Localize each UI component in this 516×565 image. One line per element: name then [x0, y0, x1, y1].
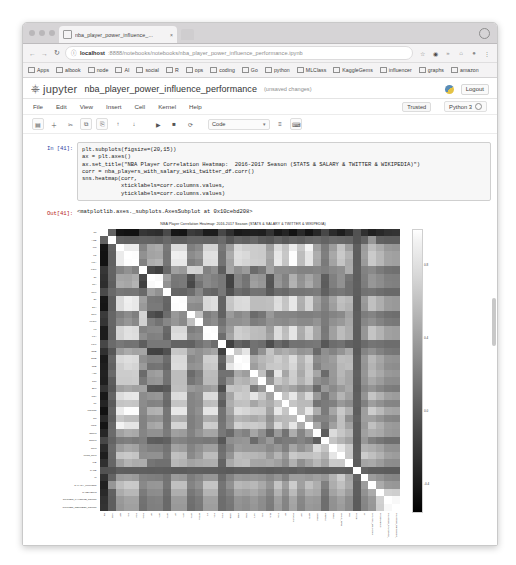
heatmap-cell	[187, 385, 195, 392]
bookmark-item[interactable]: coding	[210, 67, 235, 74]
heatmap-cell	[218, 377, 226, 384]
heatmap-cell	[297, 303, 305, 310]
code-line: corr = nba_players_with_salary_wiki_twit…	[82, 168, 254, 175]
bookmark-item[interactable]: R	[166, 67, 179, 74]
window-controls[interactable]	[29, 30, 55, 36]
reload-icon[interactable]: ↻	[53, 49, 60, 57]
minimize-window-button[interactable]	[39, 30, 45, 36]
heatmap-cell	[132, 229, 140, 236]
profile-avatar[interactable]	[479, 28, 490, 39]
menu-item-cell[interactable]: Cell	[134, 103, 145, 110]
bookmark-item[interactable]: MLClass	[297, 67, 327, 74]
cell-type-select[interactable]: Code ▾	[208, 119, 270, 130]
output-text: <matplotlib.axes._subplots.AxesSubplot a…	[77, 207, 491, 215]
keyboard-shortcut-icon[interactable]: ⌨	[290, 118, 302, 130]
menu-item-edit[interactable]: Edit	[56, 103, 67, 110]
move-up-icon[interactable]: ↑	[112, 118, 124, 130]
jupyter-logo[interactable]: ⎈ jupyter	[31, 83, 77, 95]
bookmark-item[interactable]: AI	[115, 67, 129, 74]
bookmark-item[interactable]: Go	[242, 67, 258, 74]
heatmap-cell	[203, 296, 211, 303]
close-window-button[interactable]	[29, 30, 35, 36]
cut-icon[interactable]: ✂	[64, 118, 76, 130]
paste-icon[interactable]: ⎘	[96, 118, 108, 130]
heatmap-cell	[116, 229, 124, 236]
bookmark-item[interactable]: social	[136, 67, 159, 74]
bookmark-item[interactable]: KaggleGems	[333, 67, 373, 74]
close-icon[interactable]: ×	[170, 32, 173, 38]
heatmap-cell	[297, 370, 305, 377]
x-tick-label: PF	[284, 513, 287, 516]
x-tick-label: FT	[205, 513, 208, 516]
kernel-indicator[interactable]: Python 3	[444, 101, 487, 112]
browser-tab[interactable]: nba_player_power_influence_... ×	[59, 26, 177, 43]
info-icon[interactable]: ⓘ	[71, 49, 77, 57]
heatmap-cell	[289, 444, 297, 451]
heatmap-cell	[116, 296, 124, 303]
command-palette-icon[interactable]: ≡	[274, 118, 286, 130]
back-icon[interactable]: ←	[29, 50, 36, 57]
maximize-window-button[interactable]	[49, 30, 55, 36]
bookmark-item[interactable]: influencer	[380, 67, 412, 74]
logout-button[interactable]: Logout	[461, 84, 489, 95]
heatmap-cell	[282, 489, 290, 496]
heatmap-cell	[353, 340, 361, 347]
page-scrollbar[interactable]	[492, 298, 496, 346]
menu-item-kernel[interactable]: Kernel	[158, 103, 176, 110]
menu-item-help[interactable]: Help	[189, 103, 202, 110]
heatmap-cell	[329, 333, 337, 340]
heatmap-cell	[329, 303, 337, 310]
copy-icon[interactable]: ⧉	[80, 118, 92, 130]
bookmark-item[interactable]: node	[88, 67, 109, 74]
stop-icon[interactable]: ■	[168, 118, 180, 130]
bookmark-item[interactable]: amazon	[451, 67, 479, 74]
heatmap-cell	[384, 400, 392, 407]
heatmap-cell	[353, 236, 361, 243]
menu-item-insert[interactable]: Insert	[106, 103, 121, 110]
extension-icon[interactable]: ◉	[431, 50, 439, 57]
heatmap-cell	[337, 429, 345, 436]
extensions-overflow-icon[interactable]: »	[444, 50, 452, 56]
move-down-icon[interactable]: ↓	[128, 118, 140, 130]
heatmap-cell	[139, 326, 147, 333]
heatmap-cell	[124, 363, 132, 370]
bookmark-label: amazon	[460, 67, 479, 73]
heatmap-cell	[195, 459, 203, 466]
heatmap-cell	[392, 474, 400, 481]
menu-item-file[interactable]: File	[33, 103, 43, 110]
run-icon[interactable]: ▶	[152, 118, 164, 130]
notebook-title[interactable]: nba_player_power_influence_performance	[84, 84, 257, 94]
jupyter-logo-text: jupyter	[43, 83, 77, 95]
heatmap-cell	[116, 311, 124, 318]
bookmark-item[interactable]: graphs	[419, 67, 444, 74]
account-icon[interactable]: ●	[470, 50, 478, 56]
menu-item-view[interactable]: View	[80, 103, 93, 110]
bookmark-item[interactable]: albook	[56, 67, 81, 74]
bookmark-item[interactable]: python	[265, 67, 290, 74]
heatmap-cell	[179, 259, 187, 266]
add-cell-icon[interactable]: ＋	[48, 118, 60, 130]
bookmark-item[interactable]: Apps	[28, 67, 49, 74]
address-input[interactable]: ⓘ localhost :8888/notebooks/notebooks/nb…	[65, 46, 413, 60]
heatmap-cell	[337, 340, 345, 347]
heatmap-cell	[108, 340, 116, 347]
colorbar-tick-label: 0.0	[424, 409, 428, 413]
heatmap-cell	[226, 407, 234, 414]
heatmap-cell	[384, 377, 392, 384]
bookmark-star-icon[interactable]: ☆	[418, 50, 426, 57]
x-tick-label: GP	[300, 513, 303, 517]
code-editor[interactable]: plt.subplots(figsize=(20,15)) ax = plt.a…	[77, 142, 491, 201]
heatmap-cell	[211, 355, 219, 362]
save-icon[interactable]: ▤	[32, 118, 44, 130]
new-tab-button[interactable]	[181, 29, 194, 40]
forward-icon[interactable]: →	[41, 50, 48, 57]
heatmap-cell	[147, 392, 155, 399]
restart-icon[interactable]: ⟳	[184, 118, 196, 130]
heatmap-cell	[258, 281, 266, 288]
bookmark-item[interactable]: ops	[186, 67, 204, 74]
trusted-badge[interactable]: Trusted	[402, 102, 431, 112]
heatmap-cell	[203, 236, 211, 243]
browser-menu-icon[interactable]: ⋮	[483, 50, 491, 57]
notifications-icon[interactable]: ⌂	[457, 50, 465, 56]
folder-icon	[265, 67, 272, 74]
